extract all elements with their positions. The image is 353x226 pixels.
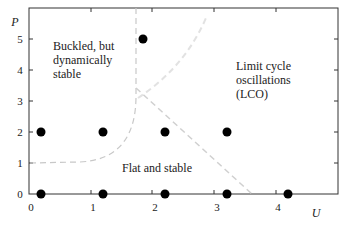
region-label-line: (LCO) (236, 87, 268, 101)
x-tick-label-4: 4 (275, 201, 281, 213)
y-axis-label: P (10, 15, 19, 29)
y-axis-ticks-right (334, 39, 338, 163)
y-tick-label-4: 4 (17, 64, 23, 76)
region-label-line: Limit cycle (236, 59, 291, 73)
data-point (99, 190, 108, 199)
region-label-lco: Limit cycle oscillations (LCO) (236, 59, 291, 101)
region-label-buckled: Buckled, but dynamically stable (53, 39, 115, 81)
x-axis-ticks-top (91, 8, 276, 12)
buckling-boundary-line (29, 8, 136, 163)
data-point (223, 128, 232, 137)
data-point (99, 128, 108, 137)
lco-upper-boundary-line (138, 18, 206, 98)
data-point (37, 190, 46, 199)
data-point (223, 190, 232, 199)
region-label-line: oscillations (236, 73, 291, 87)
data-point (161, 190, 170, 199)
stability-map-chart: 0 1 2 3 4 5 0 1 2 3 4 P U Buckled, but d… (0, 0, 353, 226)
region-label-line: Flat and stable (122, 161, 192, 175)
x-axis-label: U (312, 206, 322, 220)
x-tick-label-1: 1 (90, 201, 96, 213)
x-tick-label-3: 3 (214, 201, 220, 213)
x-tick-label-0: 0 (28, 201, 34, 213)
y-tick-label-1: 1 (17, 157, 23, 169)
flutter-boundary-line (136, 88, 252, 194)
data-point (161, 128, 170, 137)
data-point (139, 35, 148, 44)
y-tick-label-2: 2 (17, 126, 23, 138)
y-tick-label-0: 0 (17, 188, 23, 200)
region-label-flat: Flat and stable (122, 161, 192, 175)
x-tick-label-2: 2 (152, 201, 158, 213)
data-point (284, 190, 293, 199)
y-tick-label-5: 5 (17, 33, 23, 45)
region-label-line: stable (53, 67, 81, 81)
y-axis-ticks-left (29, 39, 33, 163)
data-point (37, 128, 46, 137)
region-label-line: dynamically (53, 53, 112, 67)
y-tick-label-3: 3 (17, 95, 23, 107)
region-label-line: Buckled, but (53, 39, 115, 53)
